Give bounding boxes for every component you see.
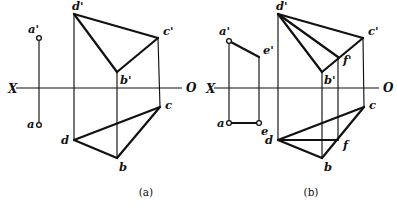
axis-label-x: X <box>7 82 18 96</box>
edge-bc-front <box>117 38 158 72</box>
edge-dc-front <box>278 14 363 38</box>
edge-df-front <box>278 14 338 57</box>
vertex-label-a: a <box>27 117 34 131</box>
edge-db-front <box>278 14 322 72</box>
panel-a: XOa'ad'c'b'dcb <box>7 0 197 174</box>
figure-captions: (a)(b) <box>139 186 319 198</box>
vertex-label-a-prime: a' <box>28 22 39 36</box>
vertex-marker-a-prime <box>37 36 42 41</box>
vertex-label-a: a <box>217 116 224 130</box>
vertex-label-c: c <box>165 98 172 112</box>
vertex-label-d-prime: d' <box>72 0 84 13</box>
caption-a: (a) <box>139 186 153 198</box>
vertex-label-d: d <box>265 133 273 147</box>
vertex-label-d-prime: d' <box>276 0 288 13</box>
vertex-marker-a <box>227 121 232 126</box>
figure-root: XOa'ad'c'b'dcb XOa'e'aed'c'f'b'dcfb (a)(… <box>0 0 397 212</box>
vertex-marker-a <box>37 123 42 128</box>
vertex-marker-a-prime <box>227 39 232 44</box>
axis-label-x: X <box>205 82 216 96</box>
vertex-label-b: b <box>119 160 127 174</box>
edge-ae-front <box>229 41 259 57</box>
technical-drawing-svg: XOa'ad'c'b'dcb XOa'e'aed'c'f'b'dcfb (a)(… <box>0 0 397 212</box>
vertex-label-d: d <box>61 133 69 147</box>
vertex-label-f-prime: f' <box>342 53 351 67</box>
connector-c <box>363 38 364 107</box>
caption-b: (b) <box>304 186 319 198</box>
vertex-label-a-prime: a' <box>219 24 230 38</box>
vertex-label-b-prime: b' <box>324 73 336 87</box>
vertex-label-c-prime: c' <box>163 24 174 38</box>
vertex-label-b: b <box>324 160 332 174</box>
panel-b: XOa'e'aed'c'f'b'dcfb <box>205 0 394 174</box>
vertex-label-b-prime: b' <box>120 73 132 87</box>
vertex-label-f: f <box>342 138 350 152</box>
edge-db-top <box>278 140 322 158</box>
vertex-label-c: c <box>369 98 376 112</box>
axis-label-o: O <box>383 81 394 95</box>
edge-db-top <box>74 140 117 158</box>
axis-label-o: O <box>186 81 197 95</box>
edge-db-front <box>74 14 117 72</box>
edge-dc-front <box>74 14 158 38</box>
connector-c <box>158 38 160 107</box>
vertex-label-c-prime: c' <box>368 24 379 38</box>
vertex-label-e-prime: e' <box>263 43 274 57</box>
